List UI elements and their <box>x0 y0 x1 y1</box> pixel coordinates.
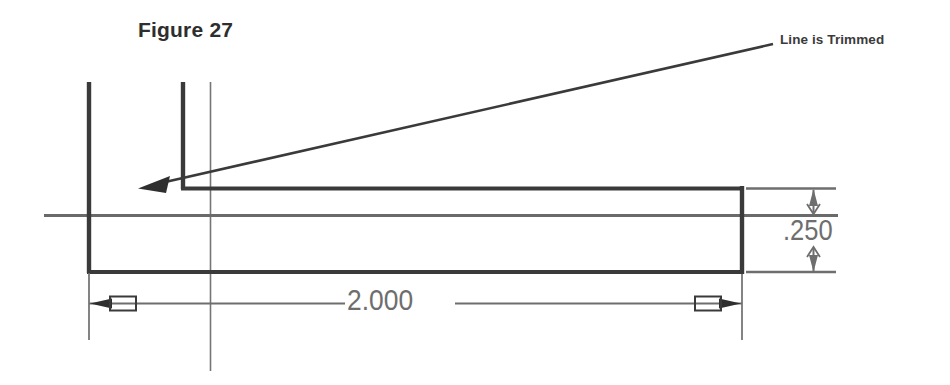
dimension-arrow-down-icon <box>809 255 818 272</box>
dimension-value-length: 2.000 <box>347 283 413 317</box>
drawing-canvas: Figure 27 Line is Trimmed 2.000 .250 <box>0 0 950 385</box>
leader-annotation <box>138 44 773 193</box>
leader-label: Line is Trimmed <box>780 32 884 47</box>
horizontal-dimension <box>89 297 742 311</box>
dimension-arrow-left-icon <box>90 299 112 309</box>
dimension-value-thickness: .250 <box>783 214 833 247</box>
page-title: Figure 27 <box>138 18 233 42</box>
center-lines <box>44 82 838 371</box>
technical-drawing <box>0 0 950 385</box>
arrow-left-icon <box>138 176 170 193</box>
dimension-arrow-right-icon <box>719 299 741 309</box>
dimension-arrow-up-icon <box>809 189 818 206</box>
extension-lines <box>89 189 836 341</box>
leader-line <box>152 44 773 185</box>
